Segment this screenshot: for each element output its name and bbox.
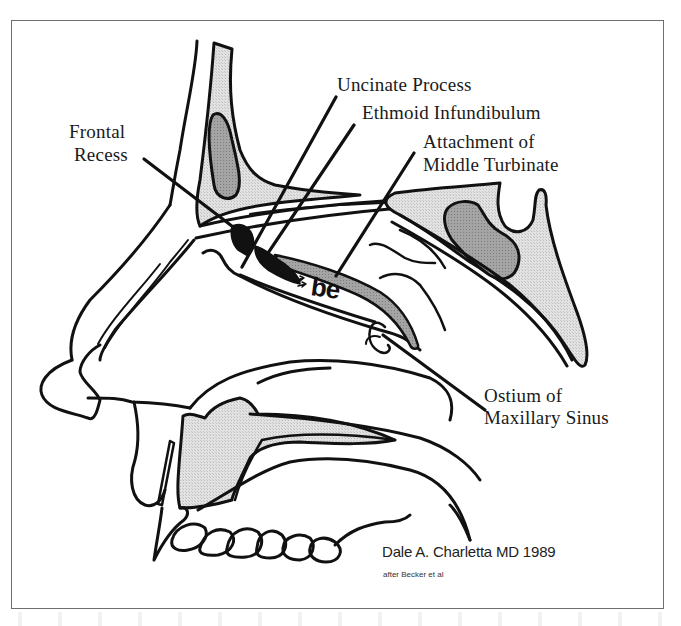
nasal-bone-strip-2	[98, 264, 160, 344]
label-frontal-recess-line1: Frontal	[69, 121, 125, 143]
incisor-root	[158, 441, 174, 505]
maxilla-bone	[178, 398, 395, 508]
label-middle-turbinate-line1: Attachment of	[423, 131, 535, 153]
ostium-outline-2	[366, 336, 380, 344]
superior-meatus-line-1	[370, 244, 435, 263]
label-maxillary-ostium-line1: Ostium of	[484, 385, 562, 407]
nasal-bone-inner	[100, 240, 194, 360]
maxilla-inner	[235, 435, 395, 500]
label-uncinate-process: Uncinate Process	[337, 74, 472, 96]
canine-tooth	[154, 508, 187, 560]
label-maxillary-ostium-line2: Maxillary Sinus	[484, 407, 609, 429]
leader-maxillary-ostium	[383, 335, 485, 410]
nasal-floor-curve	[258, 368, 330, 383]
mandible-back	[335, 515, 410, 545]
nostril-base	[88, 398, 190, 408]
label-middle-turbinate-line2: Middle Turbinate	[423, 154, 559, 176]
author-credit: Dale A. Charletta MD 1989	[382, 543, 555, 560]
label-frontal-recess-line2: Recess	[74, 144, 128, 166]
cropped-caption-strip	[0, 612, 681, 626]
label-bulla-ethmoidalis: be	[309, 271, 341, 306]
sphenoid-sinus	[445, 202, 520, 279]
label-ethmoid-infundibulum: Ethmoid Infundibulum	[362, 102, 541, 124]
source-credit: after Becker et al	[383, 570, 443, 579]
